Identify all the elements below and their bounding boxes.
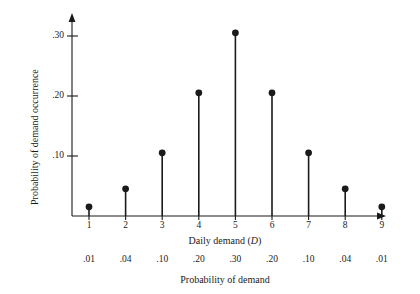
data-point-marker — [195, 89, 202, 96]
probability-value: .10 — [156, 255, 168, 265]
x-axis-title-prefix: Daily demand ( — [189, 235, 251, 246]
data-point-marker — [269, 89, 276, 96]
y-axis-title: Probability of demand occurrence — [30, 69, 40, 205]
y-axis-tick-label: .10 — [52, 151, 64, 161]
probability-value: .20 — [193, 255, 205, 265]
x-axis-title-suffix: ) — [258, 235, 261, 246]
data-point-marker — [122, 185, 129, 192]
probability-distribution-figure: .10.20.30 123456789 .01.04.10.20.30.20.1… — [0, 0, 420, 294]
x-axis-tick-label: 4 — [196, 221, 201, 231]
y-axis-tick-label: .30 — [52, 31, 64, 41]
x-axis-tick-label: 8 — [343, 221, 348, 231]
x-axis-tick-label: 2 — [123, 221, 128, 231]
data-point-marker — [159, 149, 166, 156]
probability-value: .04 — [339, 255, 351, 265]
data-point-marker — [378, 203, 385, 210]
data-point-marker — [342, 185, 349, 192]
x-axis-tick-label: 7 — [306, 221, 311, 231]
x-axis-title: Daily demand (D) — [189, 236, 262, 246]
y-axis-tick-label: .20 — [52, 91, 64, 101]
axes — [69, 13, 386, 219]
data-point-marker — [86, 203, 93, 210]
probability-value: .01 — [376, 255, 388, 265]
probability-value: .04 — [120, 255, 132, 265]
x-axis-tick-label: 1 — [87, 221, 92, 231]
data-point-marker — [232, 29, 239, 36]
x-axis-tick-label: 3 — [160, 221, 165, 231]
x-axis-tick-label: 5 — [233, 221, 238, 231]
stem-series — [86, 29, 386, 220]
probability-value: .30 — [229, 255, 241, 265]
probability-value: .01 — [83, 255, 95, 265]
probability-value: .20 — [266, 255, 278, 265]
probability-value: .10 — [303, 255, 315, 265]
data-point-marker — [305, 149, 312, 156]
x-axis-tick-label: 6 — [270, 221, 275, 231]
x-axis-tick-label: 9 — [379, 221, 384, 231]
plot-area — [0, 0, 420, 294]
bottom-caption: Probability of demand — [180, 275, 269, 285]
y-axis-arrow-icon — [69, 13, 76, 22]
